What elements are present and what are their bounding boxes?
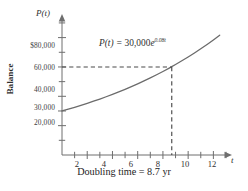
y-axis-arrow-icon <box>59 14 66 22</box>
exponential-growth-chart: Balance P(t) t $80,000 60,000 40,000 30,… <box>0 0 248 191</box>
exponential-curve <box>62 35 220 111</box>
axes-group <box>59 14 232 158</box>
chart-plot-area <box>0 0 248 191</box>
